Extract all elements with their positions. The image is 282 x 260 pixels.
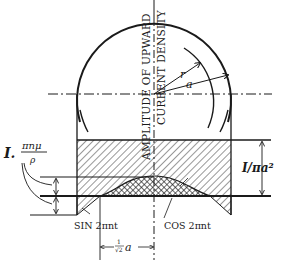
left-label-denominator: ρ: [29, 155, 36, 165]
distance-var: a: [125, 241, 132, 254]
left-label-prefix: I.: [3, 145, 15, 161]
current-density-diagram: AMPLITUDE OF UPWARD CURRENT DENSITY r a …: [0, 0, 282, 260]
right-lower-arc: [220, 110, 228, 132]
vertical-axis-label-line2: CURRENT DENSITY: [155, 9, 167, 125]
left-sin-region: [77, 196, 100, 215]
radius-a-label: a: [186, 78, 193, 91]
distance-frac-bottom: √2: [115, 246, 123, 253]
sin-leader: [82, 208, 90, 214]
left-lower-arc: [80, 110, 88, 132]
right-label: I/πa²: [241, 161, 274, 175]
sin-label: SIN 2πnt: [74, 220, 118, 231]
cos-label: COS 2πnt: [164, 220, 211, 231]
vertical-axis-label-line1: AMPLITUDE OF UPWARD: [140, 13, 152, 161]
leader-curve-1: [24, 163, 52, 185]
distance-frac-top: 1: [117, 238, 121, 245]
right-cos-region: [210, 196, 231, 215]
leader-curve-2: [22, 163, 52, 204]
left-label-numerator: πnμ: [21, 140, 42, 151]
cos-leader: [164, 198, 172, 218]
